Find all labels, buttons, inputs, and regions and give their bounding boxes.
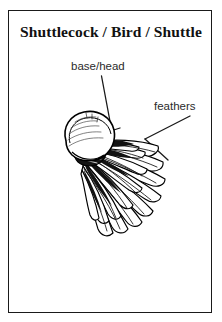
annotation-label-base-head: base/head bbox=[71, 60, 125, 73]
panel-border bbox=[8, 10, 212, 313]
page-title: Shuttlecock / Bird / Shuttle bbox=[20, 22, 200, 42]
diagram-page: Shuttlecock / Bird / Shuttle base/head f… bbox=[0, 0, 222, 322]
annotation-label-feathers: feathers bbox=[154, 100, 196, 113]
